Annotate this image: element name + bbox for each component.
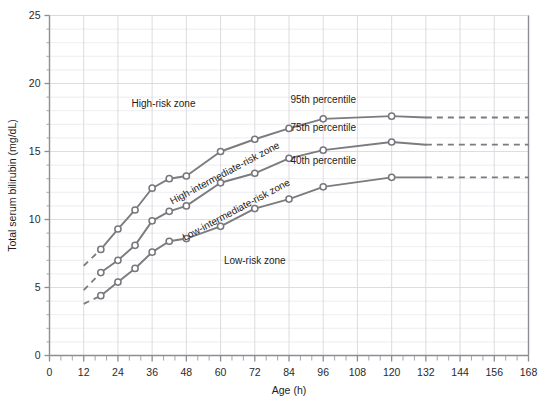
y-axis-tick-label: 0 bbox=[35, 349, 41, 361]
data-point-marker bbox=[252, 136, 258, 142]
plot-canvas: 0510152025012243648607284961081201321441… bbox=[0, 0, 552, 407]
chart-annotation-label: 95th percentile bbox=[290, 94, 356, 105]
data-point-marker bbox=[132, 207, 138, 213]
data-point-marker bbox=[183, 203, 189, 209]
x-axis-tick-label: 60 bbox=[215, 366, 227, 378]
y-axis-title: Total serum bilirubin (mg/dL) bbox=[6, 119, 18, 251]
x-axis-tick-label: 108 bbox=[349, 366, 367, 378]
data-point-marker bbox=[320, 147, 326, 153]
data-point-marker bbox=[320, 116, 326, 122]
series-tail-join bbox=[392, 142, 426, 145]
x-axis-tick-label: 72 bbox=[249, 366, 261, 378]
x-axis-tick-label: 156 bbox=[486, 366, 504, 378]
y-axis-tick-label: 15 bbox=[29, 145, 41, 157]
series-tail-join bbox=[392, 116, 426, 117]
chart-annotation-label: 40th percentile bbox=[290, 155, 356, 166]
series-line-solid bbox=[101, 177, 392, 295]
x-axis-tick-label: 120 bbox=[383, 366, 401, 378]
data-point-marker bbox=[389, 113, 395, 119]
x-axis-tick-label: 168 bbox=[520, 366, 538, 378]
data-point-marker bbox=[286, 196, 292, 202]
data-point-marker bbox=[217, 148, 223, 154]
x-axis-title: Age (h) bbox=[272, 384, 306, 396]
chart-annotation-label: Low-risk zone bbox=[224, 255, 286, 266]
data-point-marker bbox=[98, 293, 104, 299]
data-point-marker bbox=[149, 249, 155, 255]
data-point-marker bbox=[149, 185, 155, 191]
data-point-marker bbox=[252, 170, 258, 176]
x-axis-tick-label: 36 bbox=[146, 366, 158, 378]
data-point-marker bbox=[115, 257, 121, 263]
data-point-marker bbox=[389, 174, 395, 180]
y-axis-tick-label: 20 bbox=[29, 77, 41, 89]
x-axis-tick-label: 24 bbox=[112, 366, 124, 378]
data-point-marker bbox=[132, 265, 138, 271]
data-point-marker bbox=[166, 238, 172, 244]
x-axis-tick-label: 48 bbox=[181, 366, 193, 378]
data-point-marker bbox=[98, 269, 104, 275]
chart-annotation-label: High-risk zone bbox=[132, 98, 196, 109]
y-axis-tick-label: 5 bbox=[35, 281, 41, 293]
x-axis-tick-label: 84 bbox=[283, 366, 295, 378]
data-point-marker bbox=[132, 242, 138, 248]
data-point-marker bbox=[320, 184, 326, 190]
data-point-marker bbox=[183, 173, 189, 179]
x-axis-tick-label: 12 bbox=[78, 366, 90, 378]
data-point-marker bbox=[149, 218, 155, 224]
x-axis-tick-label: 96 bbox=[317, 366, 329, 378]
data-point-marker bbox=[166, 176, 172, 182]
x-axis-tick-label: 0 bbox=[47, 366, 53, 378]
data-point-marker bbox=[98, 246, 104, 252]
x-axis-tick-label: 132 bbox=[417, 366, 435, 378]
chart-annotation-label: 75th percentile bbox=[290, 122, 356, 133]
data-point-marker bbox=[115, 226, 121, 232]
data-point-marker bbox=[166, 208, 172, 214]
bilirubin-nomogram-chart: 0510152025012243648607284961081201321441… bbox=[0, 0, 552, 407]
data-point-marker bbox=[389, 139, 395, 145]
data-point-marker bbox=[115, 279, 121, 285]
y-axis-tick-label: 25 bbox=[29, 9, 41, 21]
x-axis-tick-label: 144 bbox=[451, 366, 469, 378]
y-axis-tick-label: 10 bbox=[29, 213, 41, 225]
